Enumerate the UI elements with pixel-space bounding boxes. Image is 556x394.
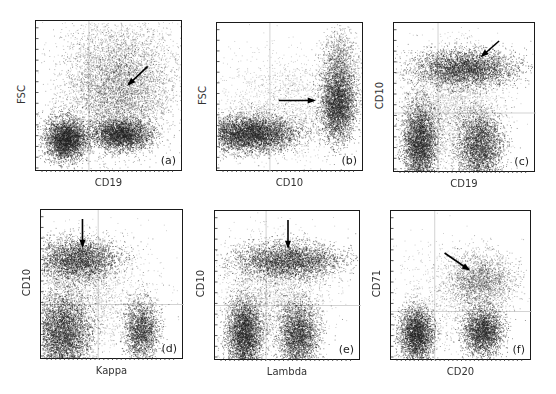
y-axis-label: CD10 (195, 254, 206, 314)
scatter-canvas (36, 21, 183, 172)
scatter-canvas (41, 210, 184, 360)
dotplot-panel: (e) (214, 210, 360, 360)
scatter-canvas (394, 23, 536, 173)
dotplot-panel: (c) (393, 22, 535, 172)
x-axis-label: Kappa (62, 365, 162, 376)
panel-tag: (c) (514, 155, 529, 168)
y-axis-label: FSC (16, 64, 27, 124)
scatter-canvas (217, 23, 364, 172)
x-axis-label: CD20 (411, 366, 511, 377)
y-axis-label: CD10 (21, 253, 32, 313)
x-axis-label: Lambda (237, 366, 337, 377)
scatter-canvas (215, 211, 361, 361)
y-axis-label: CD71 (371, 254, 382, 314)
x-axis-label: CD19 (59, 177, 159, 188)
panel-tag: (d) (161, 342, 177, 355)
dotplot-panel: (b) (216, 22, 363, 171)
panel-tag: (b) (341, 154, 357, 167)
dotplot-panel: (a) (35, 20, 182, 171)
dotplot-panel: (d) (40, 209, 183, 359)
scatter-canvas (391, 211, 532, 361)
y-axis-label: CD10 (374, 66, 385, 126)
panel-tag: (a) (161, 154, 176, 167)
panel-tag: (f) (513, 343, 525, 356)
dotplot-panel: (f) (390, 210, 531, 360)
panel-tag: (e) (339, 343, 354, 356)
x-axis-label: CD10 (240, 177, 340, 188)
y-axis-label: FSC (197, 65, 208, 125)
x-axis-label: CD19 (414, 178, 514, 189)
